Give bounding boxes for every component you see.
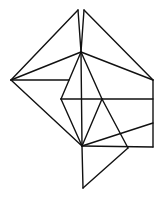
edge-row_mid-bottom_hub [82,99,102,146]
edge-top_right-right_top [84,10,153,80]
edge-top_right-hub [81,10,84,52]
edge-top_left-hub [78,10,81,52]
edge-row_left-bottom_hub [61,99,82,146]
edge-bottom_hub-bottom [82,146,83,188]
edge-bottom_hub-right_mid [82,123,153,146]
edge-bottom-lower_right [83,148,128,188]
edge-bottom_hub-right_bottom [82,146,153,147]
geometric-figure [0,0,161,197]
edge-left-top_left [11,10,78,80]
edge-left-bottom_hub [11,80,82,146]
edge-row_mid-lower_right [102,99,128,148]
